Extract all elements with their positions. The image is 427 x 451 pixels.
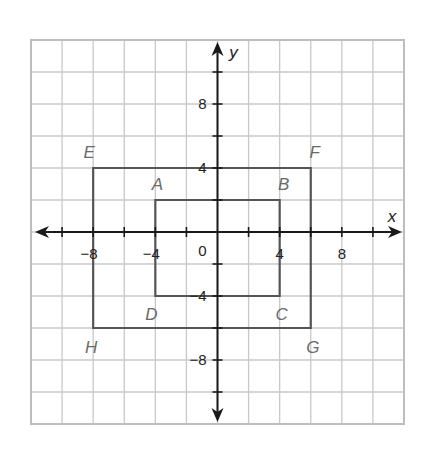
y-axis-label: y: [228, 43, 239, 62]
vertex-label-b: B: [278, 175, 289, 194]
labels: −8−44884−4−80xyABCDEFGH: [81, 43, 397, 368]
y-tick-label: −8: [189, 351, 206, 368]
vertex-label-e: E: [83, 143, 95, 162]
x-tick-label: −4: [143, 245, 160, 262]
coordinate-plane: −8−44884−4−80xyABCDEFGH: [0, 0, 427, 451]
vertex-label-f: F: [310, 143, 322, 162]
y-tick-label: 8: [198, 95, 206, 112]
x-axis-label: x: [387, 207, 397, 226]
y-tick-label: 4: [198, 159, 206, 176]
x-tick-label: 4: [275, 245, 283, 262]
vertex-label-g: G: [306, 338, 319, 357]
vertex-label-d: D: [145, 305, 157, 324]
vertex-label-a: A: [151, 175, 163, 194]
origin-label: 0: [198, 242, 206, 259]
x-tick-label: 8: [338, 245, 346, 262]
vertex-label-c: C: [276, 305, 289, 324]
x-tick-label: −8: [81, 245, 98, 262]
axes: [35, 42, 402, 422]
vertex-label-h: H: [85, 338, 98, 357]
y-tick-label: −4: [189, 287, 206, 304]
